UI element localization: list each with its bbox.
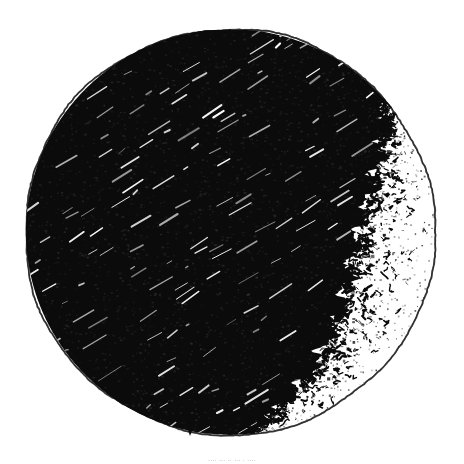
figure-plate: .... ... .. ... . .... [0, 0, 464, 464]
figure-caption: .... ... .. ... . .... [0, 455, 464, 464]
planetary-disk-drawing [0, 0, 464, 464]
